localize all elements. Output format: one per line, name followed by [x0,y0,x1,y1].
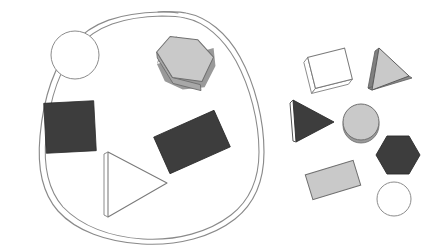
scene-svg [0,0,433,247]
shape-diagram-canvas [0,0,433,247]
inner-circle-white[interactable] [51,31,99,79]
inner-square-dark[interactable] [44,101,97,154]
outer-circle-gray-face [343,104,379,140]
outer-circle-gray[interactable] [343,104,379,143]
outer-circle-white[interactable] [377,182,411,216]
inner-square-dark-face [44,101,97,154]
